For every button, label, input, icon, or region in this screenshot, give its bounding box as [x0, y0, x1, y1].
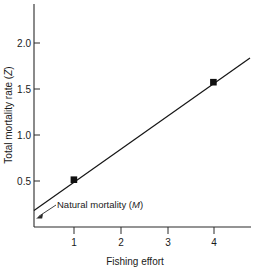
x-tick-label-1: 1	[71, 237, 77, 248]
figure-container: 2.0 1.5 1.0 0.5 1 2 3 4 Natural mortalit…	[0, 0, 253, 272]
regression-line	[34, 58, 250, 210]
annotation-label-main: Natural mortality (	[57, 199, 133, 210]
x-tick-label-4: 4	[211, 237, 217, 248]
natural-mortality-annotation: Natural mortality (M)	[36, 199, 143, 219]
data-point-marker	[210, 79, 217, 86]
x-axis-ticks	[74, 227, 214, 234]
x-tick-label-2: 2	[118, 237, 124, 248]
y-tick-label-1: 0.5	[17, 176, 31, 187]
data-point-marker	[71, 176, 78, 183]
data-points	[71, 79, 217, 183]
annotation-label: Natural mortality (M)	[57, 199, 143, 210]
y-axis-title: Total mortality rate (Z)	[3, 66, 14, 163]
annotation-label-symbol: M	[132, 199, 140, 210]
mortality-vs-effort-chart: 2.0 1.5 1.0 0.5 1 2 3 4 Natural mortalit…	[0, 0, 253, 272]
y-axis-title-close: )	[3, 66, 14, 69]
y-tick-label-2: 1.0	[17, 130, 31, 141]
y-axis-ticks	[34, 43, 40, 181]
annotation-label-close: )	[140, 199, 143, 210]
y-tick-label-3: 1.5	[17, 84, 31, 95]
x-tick-label-3: 3	[165, 237, 171, 248]
y-tick-label-4: 2.0	[17, 38, 31, 49]
y-axis-title-main: Total mortality rate (	[3, 75, 14, 163]
annotation-leader-line	[39, 205, 57, 217]
x-axis-title: Fishing effort	[106, 256, 164, 267]
